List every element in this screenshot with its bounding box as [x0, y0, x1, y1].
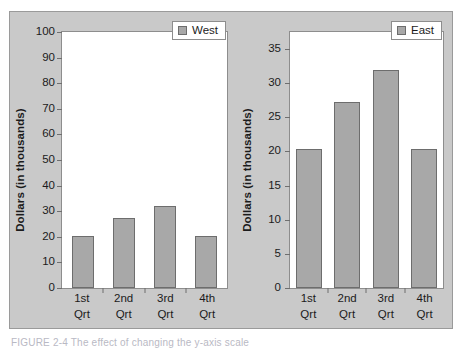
figure-caption: FIGURE 2-4 The effect of changing the y-… — [11, 337, 249, 348]
x-axis-tick-labels-west: 1stQrt2ndQrt3rdQrt4thQrt — [61, 291, 228, 331]
bar-slot — [366, 32, 404, 288]
bar — [72, 236, 94, 288]
bar — [296, 149, 322, 288]
bar — [334, 102, 360, 288]
y-tick-mark — [57, 288, 62, 289]
bar-slot — [405, 32, 443, 288]
x-tick-label: 2ndQrt — [338, 291, 357, 322]
y-tick-mark — [57, 211, 62, 212]
bar-slot — [145, 32, 186, 288]
legend-swatch-icon — [178, 26, 187, 35]
y-tick-label: 50 — [29, 154, 55, 166]
y-tick-label: 20 — [255, 146, 281, 158]
y-tick-mark — [285, 151, 290, 152]
y-axis-title-west: Dollars (in thousands) — [10, 12, 30, 328]
x-axis-tick-labels-east: 1stQrt2ndQrt3rdQrt4thQrt — [289, 291, 444, 331]
bar — [411, 149, 437, 288]
bar — [113, 218, 135, 288]
y-tick-mark — [285, 117, 290, 118]
bar — [154, 206, 176, 288]
x-tick-label: 3rdQrt — [378, 291, 395, 322]
y-tick-label: 80 — [29, 77, 55, 89]
y-tick-mark — [57, 109, 62, 110]
bar — [195, 236, 217, 288]
bars-west — [62, 32, 227, 288]
y-tick-label: 30 — [29, 205, 55, 217]
bar-slot — [62, 32, 103, 288]
bar-slot — [186, 32, 227, 288]
x-tick-label: 4thQrt — [417, 291, 433, 322]
y-tick-label: 60 — [29, 129, 55, 141]
y-tick-label: 15 — [255, 180, 281, 192]
bar-slot — [328, 32, 366, 288]
y-tick-mark — [57, 262, 62, 263]
y-tick-mark — [57, 32, 62, 33]
legend-label-east: East — [411, 24, 434, 36]
x-tick-label: 4thQrt — [199, 291, 215, 322]
y-tick-mark — [57, 83, 62, 84]
x-tick-label: 1stQrt — [300, 291, 316, 322]
x-tick-label: 2ndQrt — [114, 291, 133, 322]
figure-panel: Dollars (in thousands) 01020304050607080… — [9, 11, 453, 329]
bar — [373, 70, 399, 288]
bars-east — [290, 32, 443, 288]
y-tick-mark — [285, 49, 290, 50]
y-tick-mark — [57, 186, 62, 187]
y-tick-label: 40 — [29, 180, 55, 192]
y-tick-label: 20 — [29, 231, 55, 243]
y-tick-label: 0 — [29, 282, 55, 294]
y-tick-label: 30 — [255, 77, 281, 89]
legend-west: West — [172, 21, 226, 40]
y-tick-label: 90 — [29, 52, 55, 64]
legend-label-west: West — [192, 24, 218, 36]
y-tick-label: 35 — [255, 43, 281, 55]
y-tick-mark — [285, 220, 290, 221]
bar-slot — [103, 32, 144, 288]
legend-swatch-icon — [397, 26, 406, 35]
y-tick-mark — [285, 254, 290, 255]
y-tick-label: 10 — [29, 257, 55, 269]
y-tick-label: 0 — [255, 282, 281, 294]
y-tick-label: 100 — [29, 26, 55, 38]
y-axis-tick-labels-west: 0102030405060708090100 — [29, 31, 55, 289]
bar-chart-east: Dollars (in thousands) 05101520253035 1s… — [235, 12, 452, 328]
y-tick-mark — [57, 160, 62, 161]
y-tick-label: 5 — [255, 248, 281, 260]
y-tick-mark — [57, 58, 62, 59]
y-tick-mark — [57, 134, 62, 135]
bar-slot — [290, 32, 328, 288]
plot-area-west — [61, 31, 228, 289]
legend-east: East — [391, 21, 442, 40]
y-axis-tick-labels-east: 05101520253035 — [255, 31, 281, 289]
x-tick-label: 3rdQrt — [157, 291, 174, 322]
y-tick-label: 25 — [255, 112, 281, 124]
y-tick-mark — [285, 83, 290, 84]
plot-area-east — [289, 31, 444, 289]
x-tick-label: 1stQrt — [74, 291, 90, 322]
y-tick-label: 10 — [255, 214, 281, 226]
y-tick-mark — [285, 288, 290, 289]
y-tick-mark — [285, 186, 290, 187]
bar-chart-west: Dollars (in thousands) 01020304050607080… — [10, 12, 235, 328]
y-tick-label: 70 — [29, 103, 55, 115]
y-axis-title-east: Dollars (in thousands) — [237, 12, 257, 328]
y-tick-mark — [57, 237, 62, 238]
